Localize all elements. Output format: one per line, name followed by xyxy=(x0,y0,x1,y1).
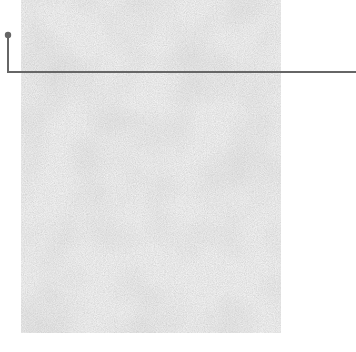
texture-swatch xyxy=(21,0,281,333)
leader-dot xyxy=(5,32,11,38)
